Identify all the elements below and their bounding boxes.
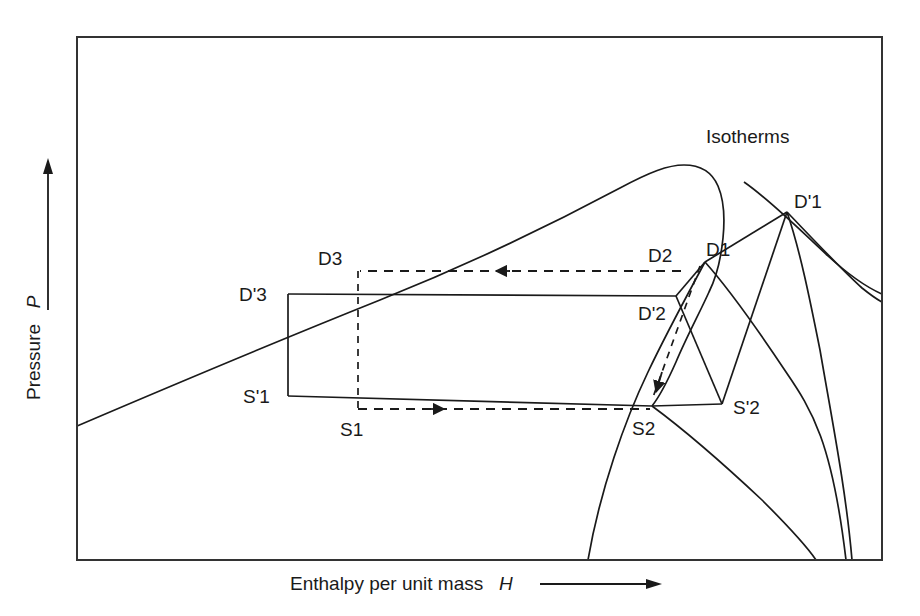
point-label-dp1: D'1: [794, 191, 822, 212]
point-label-dp2: D'2: [638, 303, 666, 324]
y-axis-label: Pressure P: [23, 295, 44, 400]
cycle-line-sp2-dp1: [722, 212, 787, 404]
x-axis-label-text: Enthalpy per unit mass: [290, 573, 483, 594]
isotherm-3: [705, 262, 846, 560]
point-label-s1: S1: [340, 419, 363, 440]
point-label-d1: D1: [706, 239, 730, 260]
isotherms-label: Isotherms: [706, 126, 789, 147]
x-axis-label: Enthalpy per unit mass H: [290, 573, 513, 594]
isotherm-6: [787, 212, 882, 302]
arrow-head-d1-s2: [656, 372, 662, 392]
y-axis-symbol: P: [23, 295, 44, 308]
point-label-d2: D2: [648, 245, 672, 266]
cycle-line-dp3-dp2: [288, 294, 676, 296]
cycle-line-sp1-s2: [288, 396, 652, 406]
x-axis-arrow-head: [646, 579, 662, 589]
diagram-canvas: Pressure P Enthalpy per unit mass H Isot…: [0, 0, 920, 616]
point-label-sp1: S'1: [243, 386, 270, 407]
isotherm-4: [787, 212, 852, 560]
x-axis-symbol: H: [499, 573, 513, 594]
pressure-enthalpy-figure: Pressure P Enthalpy per unit mass H Isot…: [0, 0, 920, 616]
cycle-line-s2-sp2: [652, 404, 722, 406]
point-label-d3: D3: [318, 248, 342, 269]
y-axis-arrow-head: [43, 158, 53, 174]
y-axis-label-text: Pressure: [23, 324, 44, 400]
plot-frame: [77, 37, 882, 560]
point-label-dp3: D'3: [239, 284, 267, 305]
point-label-s2: S2: [632, 418, 655, 439]
isotherm-2: [652, 406, 816, 560]
point-label-sp2: S'2: [733, 397, 760, 418]
